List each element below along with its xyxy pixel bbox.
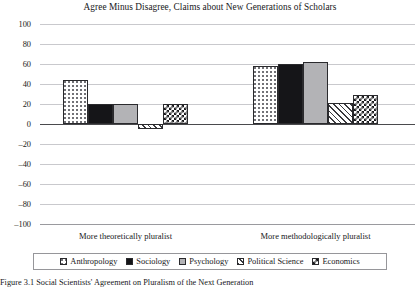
legend-label: Political Science	[247, 257, 303, 266]
y-tick-label: –80	[0, 200, 31, 209]
bar	[253, 66, 278, 124]
figure-caption: Figure 3.1 Social Scientists' Agreement …	[0, 278, 420, 287]
legend-item[interactable]: Sociology	[126, 257, 170, 266]
legend-item[interactable]: Anthropology	[60, 257, 117, 266]
plot-area: 100806040200–20–40–60–80–100	[40, 24, 415, 224]
legend-label: Sociology	[136, 257, 170, 266]
legend-swatch-icon	[126, 258, 133, 265]
gridline-neg100	[40, 224, 415, 225]
legend-swatch-icon	[237, 258, 244, 265]
bar	[88, 104, 113, 124]
legend-swatch-icon	[179, 258, 186, 265]
bar	[138, 124, 163, 129]
bar	[163, 104, 188, 124]
y-tick-label: 100	[0, 20, 31, 29]
y-tick-label: 40	[0, 80, 31, 89]
gridline-neg40	[40, 164, 415, 165]
bar	[113, 104, 138, 124]
y-tick-label: 80	[0, 40, 31, 49]
category-label: More methodologically pluralist	[260, 231, 370, 241]
legend-item[interactable]: Political Science	[237, 257, 303, 266]
gridline-0	[40, 124, 415, 125]
legend-item[interactable]: Psychology	[179, 257, 228, 266]
legend-item[interactable]: Economics	[312, 257, 359, 266]
y-tick-label: –100	[0, 220, 31, 229]
y-tick-label: 0	[0, 120, 31, 129]
y-tick-label: –20	[0, 140, 31, 149]
chart-title: Agree Minus Disagree, Claims about New G…	[0, 2, 420, 12]
y-tick-label: 60	[0, 60, 31, 69]
bar	[328, 103, 353, 124]
legend-label: Economics	[322, 257, 359, 266]
chart-legend: AnthropologySociologyPsychologyPolitical…	[33, 253, 387, 270]
legend-swatch-icon	[312, 258, 319, 265]
bar	[63, 80, 88, 124]
y-tick-label: –60	[0, 180, 31, 189]
gridline-neg60	[40, 184, 415, 185]
gridline-100	[40, 24, 415, 25]
y-tick-label: 20	[0, 100, 31, 109]
gridline-40	[40, 84, 415, 85]
legend-swatch-icon	[60, 258, 67, 265]
gridline-80	[40, 44, 415, 45]
legend-label: Anthropology	[70, 257, 117, 266]
bar	[353, 95, 378, 124]
legend-label: Psychology	[189, 257, 228, 266]
bar	[303, 62, 328, 124]
gridline-60	[40, 64, 415, 65]
bar	[278, 64, 303, 124]
gridline-neg20	[40, 144, 415, 145]
gridline-neg80	[40, 204, 415, 205]
category-label: More theoretically pluralist	[79, 231, 172, 241]
y-tick-label: –40	[0, 160, 31, 169]
figure-container: Agree Minus Disagree, Claims about New G…	[0, 0, 420, 290]
